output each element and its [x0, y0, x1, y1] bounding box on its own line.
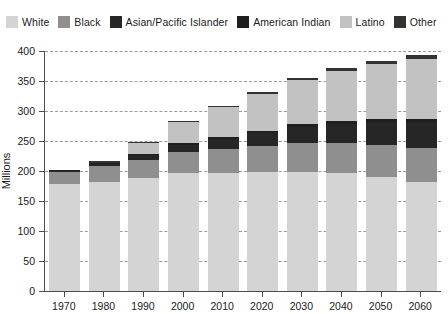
y-tick-label: 250 — [17, 136, 35, 146]
bar-segment-white[interactable] — [366, 177, 397, 291]
legend-label: Other — [410, 16, 437, 28]
legend-swatch-icon — [6, 16, 18, 28]
bar-segment-asian-pacific-islander[interactable] — [287, 127, 318, 144]
y-axis: 400350300250200150100500 — [0, 51, 44, 291]
bar-segment-asian-pacific-islander[interactable] — [326, 124, 357, 144]
bar-2020[interactable] — [247, 92, 278, 291]
bar-1990[interactable] — [128, 142, 159, 291]
chart-legend: WhiteBlackAsian/Pacific IslanderAmerican… — [0, 14, 448, 30]
legend-swatch-icon — [394, 16, 406, 28]
bar-segment-latino[interactable] — [208, 107, 239, 137]
x-tick-label: 1970 — [52, 300, 75, 314]
plot-area — [44, 51, 441, 292]
y-tick-label: 50 — [23, 256, 35, 266]
x-tick: 2040 — [325, 292, 356, 314]
y-tick-label: 300 — [17, 106, 35, 116]
legend-swatch-icon — [58, 16, 70, 28]
bar-1980[interactable] — [89, 161, 120, 291]
legend-label: White — [22, 16, 49, 28]
bar-segment-black[interactable] — [287, 143, 318, 171]
bar-segment-asian-pacific-islander[interactable] — [247, 133, 278, 146]
bar-segment-latino[interactable] — [326, 71, 357, 121]
bar-segment-white[interactable] — [89, 182, 120, 291]
bar-1970[interactable] — [49, 170, 80, 291]
x-tick-label: 2010 — [210, 300, 233, 314]
bar-group — [45, 51, 441, 291]
x-tick-label: 2030 — [290, 300, 313, 314]
bar-segment-black[interactable] — [89, 166, 120, 182]
bar-segment-black[interactable] — [366, 145, 397, 177]
y-tick-label: 100 — [17, 226, 35, 236]
x-tick-label: 2000 — [171, 300, 194, 314]
bar-segment-white[interactable] — [208, 173, 239, 291]
legend-item-latino[interactable]: Latino — [340, 16, 385, 28]
x-tick-label: 1990 — [131, 300, 154, 314]
bar-segment-latino[interactable] — [128, 143, 159, 154]
y-tick-label: 400 — [17, 46, 35, 56]
bar-2050[interactable] — [366, 61, 397, 291]
legend-item-white[interactable]: White — [6, 16, 49, 28]
y-tick-label: 150 — [17, 196, 35, 206]
legend-item-other[interactable]: Other — [394, 16, 437, 28]
legend-item-asian-pacific-islander[interactable]: Asian/Pacific Islander — [110, 16, 229, 28]
x-tick: 2030 — [286, 292, 317, 314]
bar-segment-latino[interactable] — [168, 122, 199, 143]
x-tick-mark — [301, 292, 302, 297]
bar-segment-asian-pacific-islander[interactable] — [168, 145, 199, 152]
bar-segment-white[interactable] — [49, 184, 80, 291]
x-tick-label: 2060 — [408, 300, 431, 314]
bar-segment-asian-pacific-islander[interactable] — [406, 122, 437, 148]
x-tick-mark — [143, 292, 144, 297]
bar-segment-latino[interactable] — [287, 80, 318, 124]
x-tick: 1970 — [48, 292, 79, 314]
bar-segment-white[interactable] — [287, 172, 318, 291]
x-tick-mark — [64, 292, 65, 297]
bar-segment-black[interactable] — [326, 143, 357, 173]
y-tick-label: 0 — [29, 286, 35, 296]
x-tick-mark — [183, 292, 184, 297]
bar-segment-white[interactable] — [406, 182, 437, 291]
legend-swatch-icon — [340, 16, 352, 28]
bar-2040[interactable] — [326, 68, 357, 291]
bar-segment-black[interactable] — [49, 172, 80, 185]
x-tick-mark — [262, 292, 263, 297]
legend-swatch-icon — [237, 16, 249, 28]
bar-segment-black[interactable] — [406, 148, 437, 182]
bar-2030[interactable] — [287, 78, 318, 291]
bar-segment-white[interactable] — [247, 172, 278, 291]
legend-swatch-icon — [110, 16, 122, 28]
bar-2060[interactable] — [406, 55, 437, 291]
x-tick: 1980 — [88, 292, 119, 314]
legend-label: Latino — [356, 16, 385, 28]
x-tick: 2060 — [405, 292, 436, 314]
bar-segment-black[interactable] — [208, 149, 239, 172]
x-tick-label: 1980 — [92, 300, 115, 314]
bar-segment-white[interactable] — [168, 173, 199, 291]
y-tick-label: 350 — [17, 76, 35, 86]
bar-2000[interactable] — [168, 121, 199, 291]
y-tick-label: 200 — [17, 166, 35, 176]
x-tick: 2020 — [246, 292, 277, 314]
bar-2010[interactable] — [208, 106, 239, 291]
bar-segment-latino[interactable] — [366, 64, 397, 119]
bar-segment-black[interactable] — [128, 160, 159, 178]
bar-segment-latino[interactable] — [406, 59, 437, 120]
legend-item-black[interactable]: Black — [58, 16, 100, 28]
x-axis: 1970198019902000201020202030204020502060 — [44, 292, 440, 314]
x-tick: 2000 — [167, 292, 198, 314]
x-tick-mark — [222, 292, 223, 297]
bar-segment-black[interactable] — [247, 146, 278, 172]
x-tick: 1990 — [127, 292, 158, 314]
x-tick-label: 2020 — [250, 300, 273, 314]
bar-segment-asian-pacific-islander[interactable] — [208, 139, 239, 149]
bar-segment-black[interactable] — [168, 152, 199, 174]
bar-segment-latino[interactable] — [247, 94, 278, 131]
x-tick-mark — [341, 292, 342, 297]
bar-segment-white[interactable] — [326, 173, 357, 291]
x-tick-label: 2040 — [329, 300, 352, 314]
bar-segment-asian-pacific-islander[interactable] — [366, 122, 397, 145]
x-tick: 2050 — [365, 292, 396, 314]
x-tick-label: 2050 — [369, 300, 392, 314]
legend-item-american-indian[interactable]: American Indian — [237, 16, 330, 28]
bar-segment-white[interactable] — [128, 178, 159, 291]
